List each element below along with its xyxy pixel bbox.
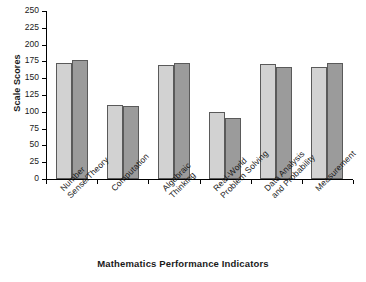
y-axis-tick-label: 150 (25, 72, 39, 83)
y-axis-tick-label: 75 (30, 123, 39, 134)
y-axis-tick-label: 25 (30, 156, 39, 167)
bar (56, 63, 72, 179)
y-axis-tick: 200 (42, 45, 46, 46)
bar-group (158, 11, 190, 179)
y-axis-tick: 100 (42, 112, 46, 113)
y-axis-tick-label: 175 (25, 55, 39, 66)
y-axis-title: Scale Scores (12, 33, 22, 133)
bar-chart: Scale Scores 250225200175150125100755025… (0, 0, 366, 282)
y-axis-tick-label: 100 (25, 106, 39, 117)
y-axis-tick: 225 (42, 28, 46, 29)
y-axis-tick: 150 (42, 78, 46, 79)
x-axis-tick (46, 180, 47, 184)
y-axis-tick-label: 125 (25, 89, 39, 100)
y-axis-tick: 75 (42, 129, 46, 130)
y-axis-tick: 250 (42, 11, 46, 12)
y-axis-tick-label: 50 (30, 139, 39, 150)
bar-group (56, 11, 88, 179)
y-axis-tick: 175 (42, 61, 46, 62)
y-axis-tick-label: 200 (25, 39, 39, 50)
bar-group (107, 11, 139, 179)
bar (209, 112, 225, 179)
y-axis-tick-label: 0 (34, 173, 39, 184)
bar (107, 105, 123, 179)
y-axis-line (46, 11, 47, 180)
x-axis-tick (353, 180, 354, 184)
y-axis-tick-label: 225 (25, 22, 39, 33)
y-axis-tick: 25 (42, 162, 46, 163)
y-axis-tick: 125 (42, 95, 46, 96)
x-axis-tick (148, 180, 149, 184)
x-axis-tick (97, 180, 98, 184)
y-axis-tick-label: 250 (25, 5, 39, 16)
x-axis-tick (200, 180, 201, 184)
y-axis-tick: 50 (42, 145, 46, 146)
bar-group (209, 11, 241, 179)
bar (158, 65, 174, 179)
bar-group (311, 11, 343, 179)
x-axis-tick (251, 180, 252, 184)
x-axis-tick (302, 180, 303, 184)
x-axis-title: Mathematics Performance Indicators (0, 258, 366, 269)
